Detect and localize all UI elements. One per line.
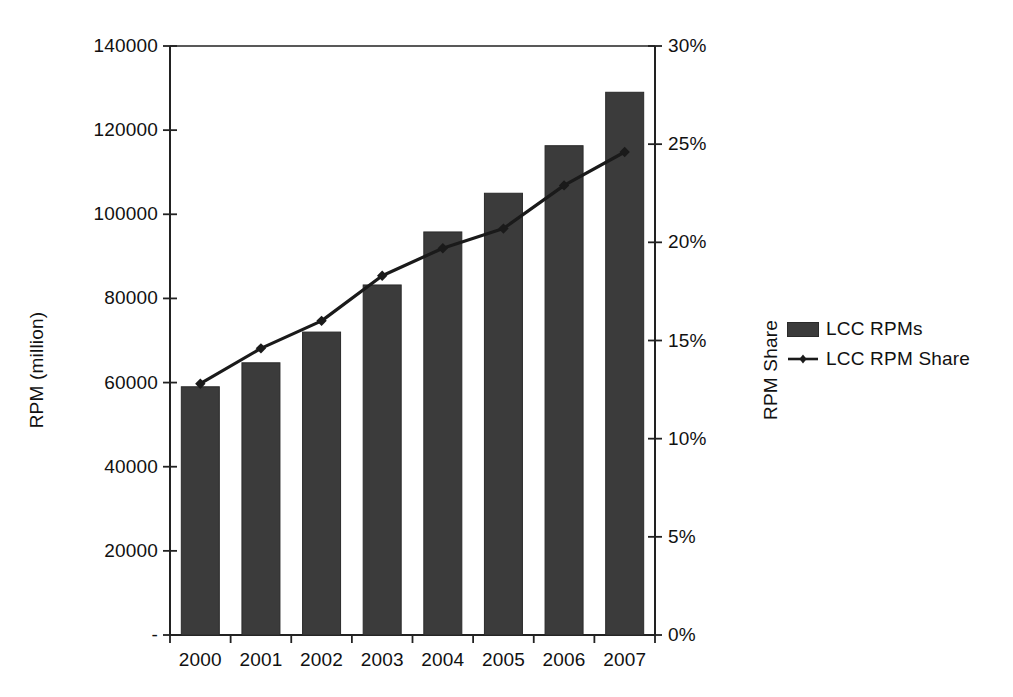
x-axis-tick-label-2006: 2006	[543, 649, 586, 671]
bar-2004	[424, 232, 462, 635]
legend-item-label: LCC RPMs	[826, 318, 923, 340]
bar-2007	[606, 92, 644, 635]
y-axis-right-tick-label: 20%	[668, 231, 738, 253]
legend-item-lcc-rpms: LCC RPMs	[787, 318, 970, 340]
y-axis-left-tick-label: 20000	[40, 540, 158, 562]
x-axis-tick-label-2007: 2007	[603, 649, 646, 671]
x-axis-tick-label-2000: 2000	[179, 649, 222, 671]
y-axis-right-tick-label: 5%	[668, 526, 738, 548]
bar-2006	[545, 146, 583, 635]
y-axis-left-tick-label: 140000	[40, 35, 158, 57]
y-axis-right-tick-label: 25%	[668, 133, 738, 155]
x-axis-tick-label-2002: 2002	[300, 649, 343, 671]
x-axis-tick-label-2001: 2001	[239, 649, 282, 671]
y-axis-left-tick-label: -	[40, 624, 158, 646]
bar-2005	[484, 193, 522, 635]
x-axis-tick-label-2003: 2003	[361, 649, 404, 671]
legend-item-lcc-rpm-share: LCC RPM Share	[787, 348, 970, 370]
y-axis-left-tick-label: 100000	[40, 203, 158, 225]
x-axis-tick-label-2004: 2004	[421, 649, 464, 671]
chart-legend: LCC RPMs LCC RPM Share	[787, 318, 970, 370]
y-axis-right-tick-label: 15%	[668, 330, 738, 352]
legend-item-label: LCC RPM Share	[826, 348, 970, 370]
y-axis-right-tick-label: 0%	[668, 624, 738, 646]
y-axis-right-tick-label: 10%	[668, 428, 738, 450]
y-axis-left-tick-label: 40000	[40, 456, 158, 478]
y-axis-left-tick-label: 120000	[40, 119, 158, 141]
bar-swatch-icon	[787, 322, 819, 337]
bar-2001	[242, 363, 280, 635]
bar-series-lcc-rpms	[181, 92, 643, 635]
x-axis-tick-label-2005: 2005	[482, 649, 525, 671]
chart-container: RPM (million) RPM Share -200004000060000…	[0, 0, 1013, 697]
bar-2000	[181, 387, 219, 635]
bar-2003	[363, 285, 401, 635]
y-axis-left-tick-label: 80000	[40, 287, 158, 309]
y-axis-left-tick-label: 60000	[40, 372, 158, 394]
line-marker-swatch-icon	[787, 352, 819, 366]
bar-2002	[303, 332, 341, 635]
y-axis-right-tick-label: 30%	[668, 35, 738, 57]
axis-lines	[163, 46, 662, 643]
